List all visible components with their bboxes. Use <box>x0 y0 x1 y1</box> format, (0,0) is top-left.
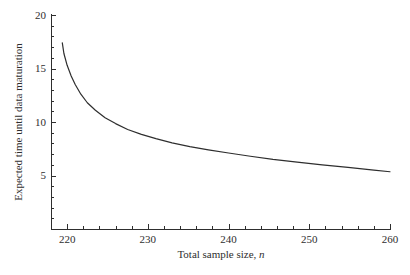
y-tick-label: 20 <box>35 9 47 21</box>
data-curve <box>62 43 390 172</box>
x-tick-label: 220 <box>59 233 76 245</box>
x-tick-label: 260 <box>382 233 399 245</box>
x-axis-title: Total sample size, n <box>51 247 391 261</box>
y-tick-label: 5 <box>41 169 47 181</box>
y-axis-title: Expected time until data maturation <box>11 7 25 237</box>
x-tick-label: 240 <box>220 233 237 245</box>
chart-canvas: 2202302402502605101520 <box>0 0 410 275</box>
y-tick-label: 10 <box>35 116 47 128</box>
axes <box>51 14 391 230</box>
x-axis-title-text: Total sample size, <box>177 248 259 260</box>
x-tick-label: 230 <box>140 233 157 245</box>
x-axis-title-variable: n <box>259 248 265 260</box>
y-tick-label: 15 <box>35 62 47 74</box>
chart-figure: 2202302402502605101520 Expected time unt… <box>0 0 410 275</box>
tick-labels: 2202302402502605101520 <box>35 9 399 246</box>
x-tick-label: 250 <box>301 233 318 245</box>
